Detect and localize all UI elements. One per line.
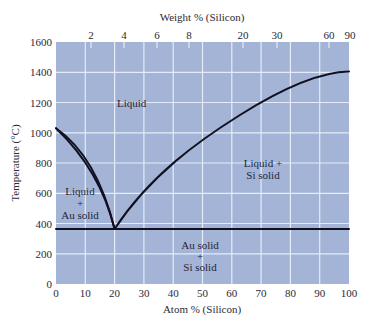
- top-axis-title: Weight % (Silicon): [160, 11, 245, 24]
- svg-text:2: 2: [88, 29, 94, 41]
- label-liquid-au-2: +: [77, 197, 83, 209]
- label-liquid: Liquid: [117, 97, 147, 109]
- label-liquid-si-2: Si solid: [246, 169, 280, 181]
- svg-text:100: 100: [341, 287, 358, 299]
- svg-text:6: 6: [154, 29, 160, 41]
- svg-text:1000: 1000: [30, 127, 53, 139]
- svg-text:600: 600: [36, 187, 53, 199]
- svg-text:0: 0: [47, 278, 53, 290]
- x-axis-title: Atom % (Silicon): [163, 303, 242, 316]
- svg-text:30: 30: [138, 287, 150, 299]
- svg-text:4: 4: [121, 29, 127, 41]
- svg-text:90: 90: [345, 29, 357, 41]
- svg-text:800: 800: [36, 157, 53, 169]
- label-liquid-au-1: Liquid: [65, 185, 95, 197]
- svg-text:10: 10: [80, 287, 92, 299]
- svg-text:1600: 1600: [30, 36, 53, 48]
- svg-text:0: 0: [53, 287, 59, 299]
- phase-diagram: Liquid Liquid + Au solid Liquid + Si sol…: [0, 0, 372, 325]
- svg-text:1200: 1200: [30, 97, 53, 109]
- svg-text:200: 200: [36, 248, 53, 260]
- svg-text:20: 20: [238, 29, 250, 41]
- top-tick-labels: 2 4 6 8 20 30 60 90: [88, 29, 356, 41]
- label-liquid-si-1: Liquid +: [244, 157, 282, 169]
- svg-text:30: 30: [272, 29, 284, 41]
- svg-text:90: 90: [314, 287, 326, 299]
- label-au-si-3: Si solid: [183, 261, 217, 273]
- svg-text:1400: 1400: [30, 66, 53, 78]
- svg-text:60: 60: [226, 287, 238, 299]
- y-axis-title: Temperature (°C): [9, 124, 22, 202]
- svg-text:8: 8: [186, 29, 192, 41]
- svg-text:60: 60: [324, 29, 336, 41]
- svg-text:70: 70: [256, 287, 268, 299]
- svg-text:40: 40: [168, 287, 180, 299]
- svg-text:50: 50: [197, 287, 209, 299]
- x-tick-labels: 0 10 20 30 40 50 60 70 80 90 100: [53, 287, 358, 299]
- label-liquid-au-3: Au solid: [61, 209, 99, 221]
- svg-text:80: 80: [285, 287, 297, 299]
- svg-text:20: 20: [109, 287, 121, 299]
- svg-text:400: 400: [36, 218, 53, 230]
- y-tick-labels: 0 200 400 600 800 1000 1200 1400 1600: [30, 36, 53, 290]
